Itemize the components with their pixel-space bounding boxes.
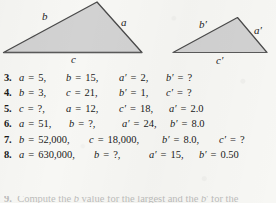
exercise-term: c′=?	[166, 85, 192, 100]
clipped-next-exercise-text: 9. Compute the b value for the largest a…	[4, 196, 238, 203]
equals-sign: =	[133, 118, 141, 129]
exercise-term: b′=8.0,	[162, 132, 199, 147]
exercise-term: b′=0.50	[199, 147, 239, 162]
exercise-term: b′=?	[166, 70, 192, 85]
equals-sign: =	[74, 103, 82, 114]
exercise-number: 4.	[4, 85, 11, 100]
exercise-term: b=?,	[69, 116, 95, 131]
term-prime-mark: ′	[171, 72, 173, 83]
term-variable: b	[66, 72, 71, 83]
term-prime-mark: ′	[224, 134, 226, 145]
exercise-number: 5.	[4, 101, 11, 116]
exercise-number: 8.	[4, 147, 11, 162]
term-variable: b	[19, 87, 24, 98]
term-value: 21,	[85, 87, 98, 98]
equals-sign: =	[129, 103, 137, 114]
equals-sign: =	[180, 103, 188, 114]
equals-sign: =	[77, 118, 85, 129]
term-variable: a	[19, 118, 24, 129]
term-value: 15,	[170, 149, 183, 160]
exercise-number: 6.	[4, 116, 11, 131]
term-variable: c	[19, 103, 24, 114]
exercise-term: a=5,	[19, 70, 46, 85]
term-variable: a	[19, 72, 24, 83]
exercise-number: 7.	[4, 132, 11, 147]
term-value: 0.50	[220, 149, 238, 160]
exercise-list: 3.a=5,b=15,a′=2,b′=?4.b=3,c=21,b′=1,c′=?…	[0, 70, 276, 162]
label-a: a	[121, 17, 127, 28]
term-value: 12,	[85, 103, 98, 114]
term-prime-mark: ′	[204, 149, 206, 160]
term-variable: b	[19, 134, 24, 145]
term-value: 5,	[38, 72, 46, 83]
exercise-row: 6.a=51,b=?,a′=24,b′=8.0	[0, 116, 276, 131]
term-value: 2,	[140, 72, 148, 83]
term-prime-mark: ′	[124, 72, 126, 83]
exercise-term: b=3,	[19, 85, 46, 100]
term-prime-mark: ′	[124, 103, 126, 114]
exercise-term: c=?,	[19, 101, 45, 116]
exercise-term: b=15,	[66, 70, 98, 85]
term-value: 15,	[85, 72, 98, 83]
term-value: 8.0,	[183, 134, 199, 145]
term-value: 3,	[38, 87, 46, 98]
term-value: 51,	[38, 118, 51, 129]
equals-sign: =	[27, 103, 35, 114]
term-prime-mark: ′	[171, 87, 173, 98]
exercise-term: c′=18,	[119, 101, 153, 116]
term-value: 8.0	[191, 118, 204, 129]
exercise-term: a=51,	[19, 116, 51, 131]
equals-sign: =	[173, 134, 181, 145]
prime-mark-b: ′	[205, 18, 207, 30]
term-prime-mark: ′	[167, 134, 169, 145]
equals-sign: =	[130, 72, 138, 83]
term-value: ?,	[113, 149, 120, 160]
term-prime-mark: ′	[127, 118, 129, 129]
equals-sign: =	[181, 118, 189, 129]
term-prime-mark: ′	[154, 149, 156, 160]
term-prime-mark: ′	[175, 118, 177, 129]
equals-sign: =	[27, 87, 35, 98]
term-value: 52,000,	[38, 134, 70, 145]
equals-sign: =	[27, 149, 35, 160]
exercise-row: 4.b=3,c=21,b′=1,c′=?	[0, 85, 276, 100]
exercise-row: 5.c=?,a=12,c′=18,a′=2.0	[0, 101, 276, 116]
term-value: 2.0	[190, 103, 203, 114]
exercise-term: a′=15,	[149, 147, 184, 162]
exercise-term: b′=8.0	[170, 116, 205, 131]
equals-sign: =	[177, 72, 185, 83]
equals-sign: =	[27, 72, 35, 83]
equals-sign: =	[210, 149, 218, 160]
exercise-term: c=18,000,	[89, 132, 139, 147]
label-a-prime: a′	[254, 25, 262, 36]
exercise-term: a′=24,	[122, 116, 157, 131]
equals-sign: =	[27, 118, 35, 129]
exercise-term: b=52,000,	[19, 132, 70, 147]
equals-sign: =	[130, 87, 138, 98]
term-value: 630,000,	[38, 149, 75, 160]
term-variable: c	[66, 87, 71, 98]
exercise-row: 3.a=5,b=15,a′=2,b′=?	[0, 70, 276, 85]
label-c-prime: c′	[216, 55, 223, 66]
term-value: ?,	[88, 118, 95, 129]
term-value: 18,000,	[108, 134, 140, 145]
similar-triangles-figure: b a c b′ a′ c′	[0, 0, 276, 70]
term-value: 24,	[143, 118, 156, 129]
label-b: b	[42, 11, 48, 22]
term-variable: a	[19, 149, 24, 160]
term-value: ?,	[38, 103, 45, 114]
exercise-number: 3.	[4, 70, 11, 85]
equals-sign: =	[176, 87, 184, 98]
label-b-prime: b′	[199, 19, 207, 30]
exercise-term: b′=1,	[119, 85, 148, 100]
equals-sign: =	[102, 149, 110, 160]
exercise-term: a=630,000,	[19, 147, 75, 162]
term-prime-mark: ′	[174, 103, 176, 114]
textbook-page: b a c b′ a′ c′ 3.a=5,b=15,a′=2,b′=?4.b=3…	[0, 0, 276, 203]
clipped-next-exercise: 9. Compute the b value for the largest a…	[0, 196, 276, 203]
exercise-term: a′=2,	[119, 70, 148, 85]
equals-sign: =	[27, 134, 35, 145]
equals-sign: =	[229, 134, 237, 145]
equals-sign: =	[74, 72, 82, 83]
term-variable: a	[66, 103, 71, 114]
